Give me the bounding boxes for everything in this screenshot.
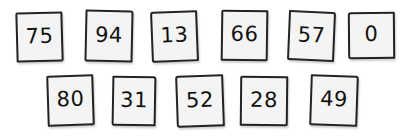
number-tiles-canvas: 759413665708031522849 [0, 0, 408, 138]
number-tile-75[interactable]: 75 [15, 11, 63, 62]
number-tile-66[interactable]: 66 [221, 10, 269, 62]
tile-value: 75 [25, 25, 53, 47]
tile-value: 0 [364, 24, 378, 45]
tile-value: 49 [320, 89, 348, 111]
number-tile-49[interactable]: 49 [309, 74, 359, 127]
tile-value: 31 [120, 89, 148, 110]
number-tile-0[interactable]: 0 [348, 12, 395, 59]
tile-value: 94 [95, 24, 123, 46]
number-tile-31[interactable]: 31 [112, 76, 157, 127]
tile-value: 52 [186, 89, 214, 111]
tile-value: 28 [250, 89, 278, 110]
number-tile-28[interactable]: 28 [240, 76, 289, 126]
tile-value: 57 [297, 24, 326, 46]
tile-value: 80 [56, 89, 84, 111]
number-tile-13[interactable]: 13 [150, 10, 199, 63]
number-tile-57[interactable]: 57 [287, 10, 336, 62]
number-tile-80[interactable]: 80 [46, 74, 95, 126]
number-tile-94[interactable]: 94 [84, 10, 133, 63]
tile-value: 13 [160, 24, 189, 46]
number-tile-52[interactable]: 52 [175, 74, 225, 128]
tile-value: 66 [230, 24, 258, 45]
